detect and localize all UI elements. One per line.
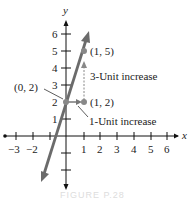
rise-arrow xyxy=(81,61,87,100)
y-tick-1: 1 xyxy=(52,113,58,125)
y-tick-6: 6 xyxy=(52,28,58,40)
x-axis-label: x xyxy=(181,129,187,141)
y-tick-2: 2 xyxy=(52,96,58,108)
run-annotation: 1-Unit increase xyxy=(89,115,157,127)
x-tick-6: 6 xyxy=(164,143,170,155)
x-tick-2: 2 xyxy=(97,143,103,155)
x-axis: −3 −2 1 2 3 4 5 6 x xyxy=(3,129,187,155)
point-label-0-2: (0, 2) xyxy=(14,81,38,94)
y-axis-label: y xyxy=(62,4,68,16)
point-0-2 xyxy=(63,99,69,105)
run-arrow xyxy=(68,99,82,105)
x-tick-1: 1 xyxy=(81,143,87,155)
rise-annotation: 3-Unit increase xyxy=(90,70,158,82)
point-1-2 xyxy=(81,99,87,105)
coordinate-plane-figure: −3 −2 1 2 3 4 5 6 x 1 2 3 4 5 6 y xyxy=(0,0,193,199)
x-tick-3: 3 xyxy=(114,143,120,155)
x-tick-5: 5 xyxy=(148,143,154,155)
x-tick-4: 4 xyxy=(131,143,137,155)
y-tick-4: 4 xyxy=(52,62,58,74)
point-1-5 xyxy=(81,48,87,54)
figure-caption: FIGURE P.28 xyxy=(60,190,125,199)
leader-line-run xyxy=(78,106,88,117)
y-tick-5: 5 xyxy=(52,45,58,57)
x-tick-neg3: −3 xyxy=(8,143,20,155)
point-label-1-2: (1, 2) xyxy=(90,96,114,109)
y-tick-3: 3 xyxy=(52,79,58,91)
point-label-1-5: (1, 5) xyxy=(90,45,114,58)
x-tick-neg2: −2 xyxy=(26,143,38,155)
